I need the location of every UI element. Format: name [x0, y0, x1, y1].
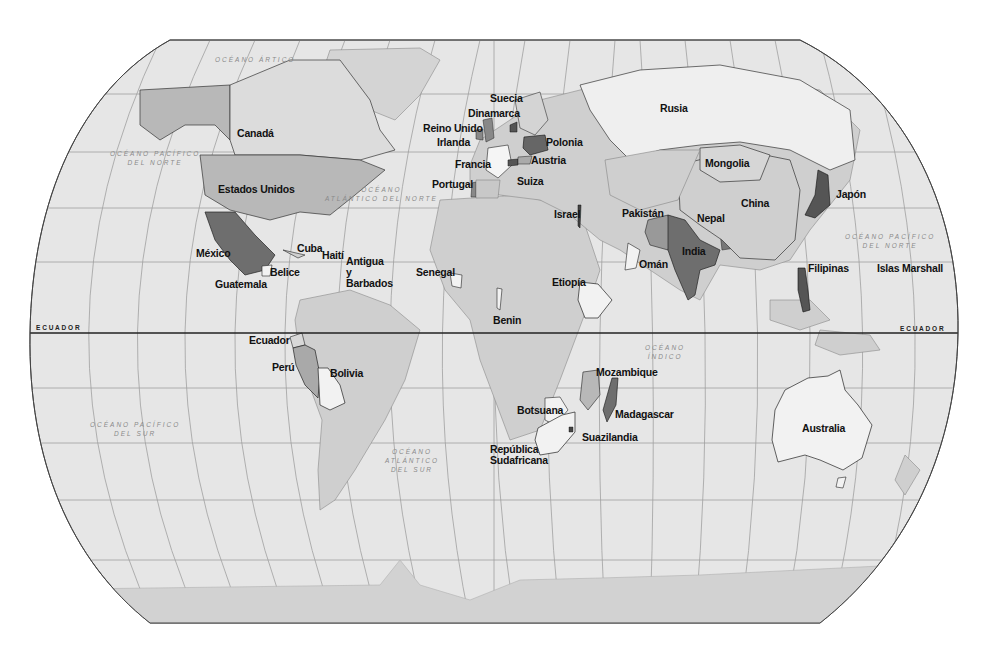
label-bolivia: Bolivia [330, 368, 363, 379]
label-austria: Austria [531, 155, 566, 166]
label-india: India [682, 246, 706, 257]
label-denmark: Dinamarca [468, 108, 520, 119]
ocean-label-south-atlantic: OCÉANOATLÁNTICODEL SUR [385, 447, 439, 474]
label-mongolia: Mongolia [705, 158, 749, 169]
label-poland: Polonia [546, 137, 583, 148]
label-swaziland: Suazilandia [582, 432, 638, 443]
ocean-label-indian: OCÉANOÍNDICO [645, 343, 685, 361]
ocean-label-north-atlantic: OCÉANOATLÁNTICO DEL NORTE [325, 185, 438, 203]
label-sweden: Suecia [490, 93, 523, 104]
label-senegal: Senegal [416, 267, 455, 278]
ocean-label-south-pacific: OCÉANO PACÍFICODEL SUR [90, 420, 180, 438]
label-united-states: Estados Unidos [218, 184, 295, 195]
label-portugal: Portugal [432, 179, 473, 190]
label-nepal: Nepal [697, 213, 725, 224]
equator-label-east: ECUADOR [900, 325, 945, 332]
swaziland [569, 427, 573, 432]
label-philippines: Filipinas [808, 263, 849, 274]
label-madagascar: Madagascar [615, 409, 674, 420]
label-belize: Belice [270, 267, 300, 278]
equator-label-west: ECUADOR [36, 324, 81, 331]
austria [518, 156, 532, 164]
spain [476, 180, 500, 198]
label-haiti: Haití [322, 250, 344, 261]
label-israel: Israel [554, 209, 580, 220]
label-france: Francia [455, 159, 491, 170]
label-mozambique: Mozambique [596, 367, 658, 378]
label-uk: Reino Unido [423, 123, 483, 134]
label-benin: Benin [493, 315, 521, 326]
label-guatemala: Guatemala [215, 279, 267, 290]
label-china: China [741, 198, 769, 209]
label-antigua-y-barbados: AntiguayBarbados [346, 256, 393, 289]
label-ireland: Irlanda [437, 137, 470, 148]
label-australia: Australia [802, 423, 845, 434]
ocean-label-arctic: OCÉANO ÁRTICO [215, 55, 295, 64]
ocean-label-north-pacific-west: OCÉANO PACÍFICODEL NORTE [110, 149, 200, 167]
label-south-africa: RepúblicaSudafricana [490, 444, 548, 466]
switzerland [508, 159, 518, 166]
ocean-label-north-pacific-east: OCÉANO PACÍFICODEL NORTE [845, 232, 935, 250]
label-marshall-islands: Islas Marshall [877, 263, 943, 274]
label-japan: Japón [836, 189, 866, 200]
label-peru: Perú [272, 362, 295, 373]
label-mexico: México [196, 248, 230, 259]
label-canada: Canadá [237, 128, 274, 139]
label-oman: Omán [639, 259, 668, 270]
label-switzerland: Suiza [517, 176, 543, 187]
label-botswana: Botsuana [517, 405, 563, 416]
label-russia: Rusia [660, 103, 688, 114]
label-ethiopia: Etiopía [552, 277, 586, 288]
label-pakistan: Pakistán [622, 208, 664, 219]
label-ecuador: Ecuador [249, 335, 290, 346]
label-cuba: Cuba [297, 243, 322, 254]
